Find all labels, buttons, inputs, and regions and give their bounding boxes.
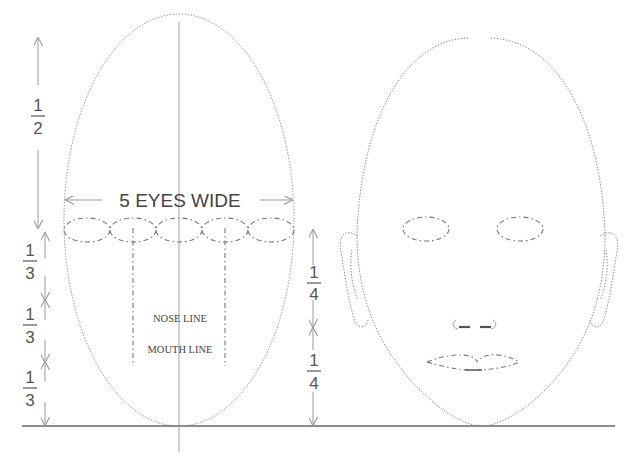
third-1-denominator: 3 — [25, 264, 34, 283]
face-proportion-diagram: 5 EYES WIDE NOSE LINE MOUTH LINE 1 2 1 3… — [0, 0, 637, 467]
eyes-wide-label: 5 EYES WIDE — [119, 190, 240, 211]
half-numerator: 1 — [33, 96, 42, 115]
eye-guide-5 — [248, 218, 294, 242]
right-ear — [590, 233, 618, 327]
left-scale: 1 2 1 3 1 3 1 3 — [23, 38, 45, 425]
third-3-denominator: 3 — [25, 391, 34, 410]
left-eye — [403, 217, 449, 241]
quarter-1-denominator: 4 — [309, 285, 318, 304]
face-outline — [357, 38, 605, 426]
left-face-guide: 5 EYES WIDE NOSE LINE MOUTH LINE — [64, 14, 294, 452]
eye-guide-1 — [64, 218, 110, 242]
right-eye — [497, 217, 543, 241]
mouth — [427, 355, 520, 370]
third-2-numerator: 1 — [25, 305, 34, 324]
quarter-1-numerator: 1 — [309, 263, 318, 282]
right-face — [340, 38, 617, 426]
quarter-2-denominator: 4 — [309, 374, 318, 393]
half-denominator: 2 — [33, 119, 42, 138]
third-3-numerator: 1 — [25, 368, 34, 387]
left-ear — [340, 233, 368, 327]
nose-line-label: NOSE LINE — [153, 313, 207, 324]
quarter-2-numerator: 1 — [309, 351, 318, 370]
middle-scale: 1 4 1 4 — [307, 230, 321, 425]
third-2-denominator: 3 — [25, 328, 34, 347]
third-1-numerator: 1 — [25, 241, 34, 260]
nose — [453, 320, 496, 329]
mouth-line-label: MOUTH LINE — [147, 344, 212, 355]
